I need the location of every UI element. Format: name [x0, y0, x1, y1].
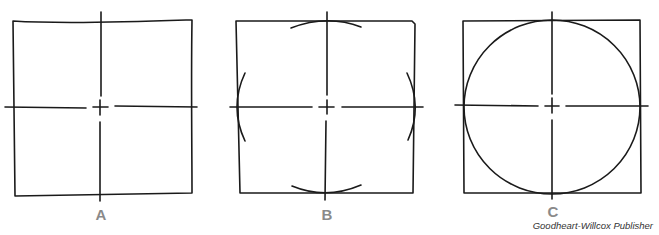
publisher-credit: Goodheart-Willcox Publisher [533, 220, 653, 231]
panel-b-arc-bottom [292, 185, 361, 193]
panel-b-label: B [322, 206, 333, 223]
diagram-canvas [0, 0, 659, 235]
panel-b-drawing [230, 12, 423, 200]
panel-c-horizontal-centerline-left [455, 105, 538, 106]
panel-c-drawing [455, 12, 648, 199]
panel-a-drawing [5, 12, 197, 201]
panel-a-horizontal-centerline-right [115, 106, 197, 107]
panel-a-label: A [96, 206, 107, 223]
panel-b-vertical-centerline-bottom [325, 121, 326, 200]
panel-b-arc-top [291, 21, 361, 28]
panel-c-label: C [548, 203, 559, 220]
panel-a-horizontal-centerline-left [5, 107, 86, 108]
